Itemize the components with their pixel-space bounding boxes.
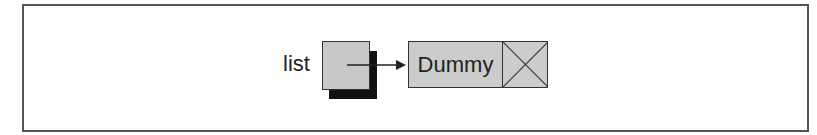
- pointer-arrow-icon: [0, 0, 817, 135]
